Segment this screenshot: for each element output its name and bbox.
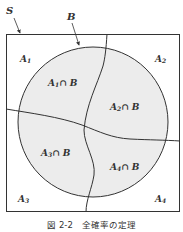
label-a1-cap-b: A1∩ B — [47, 78, 78, 88]
label-a4-cap-b: A4∩ B — [109, 162, 140, 172]
label-s: S — [6, 5, 13, 16]
s-pointer-arrow — [14, 18, 20, 33]
label-a2-cap-b: A2∩ B — [109, 102, 140, 112]
venn-diagram: S B A1 A2 A3 A4 A1∩ B A2∩ B A3∩ B A4∩ B — [0, 0, 183, 232]
label-a3-cap-b: A3∩ B — [40, 148, 71, 158]
figure-caption: 図 2-2 全確率の定理 — [0, 218, 183, 230]
label-b: B — [66, 11, 75, 22]
event-b-circle — [18, 47, 168, 197]
